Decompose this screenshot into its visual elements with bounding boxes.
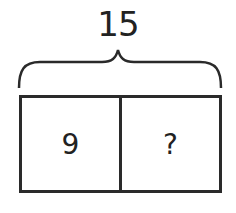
part-known: 9	[22, 98, 122, 190]
part-unknown-label: ?	[163, 128, 178, 161]
tape-diagram-bar: 9 ?	[19, 95, 222, 193]
part-unknown: ?	[122, 98, 219, 190]
part-known-label: 9	[62, 128, 80, 161]
